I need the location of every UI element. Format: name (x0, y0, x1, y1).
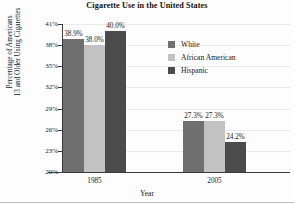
legend-swatch-icon (168, 67, 175, 74)
y-axis-label-line-2: 13 and Older Using Cigarettes (14, 8, 22, 97)
y-tick-label: 38% (38, 41, 58, 49)
y-tick-label: 35% (38, 62, 58, 70)
legend-label: Hispanic (181, 66, 208, 75)
legend-item: White (168, 38, 236, 51)
legend-swatch-icon (168, 41, 175, 48)
x-axis-line (48, 172, 290, 173)
y-axis-label: Percentage of Americans 13 and Older Usi… (0, 0, 28, 122)
bar-value-label: 27.3% (200, 112, 229, 120)
y-tick-label: 29% (38, 105, 58, 113)
y-tick-label: 41% (38, 20, 58, 28)
x-axis-label: Year (0, 189, 294, 198)
y-tick-label: 23% (38, 147, 58, 155)
page-bottom-rule (0, 202, 294, 203)
chart-title: Cigarette Use in the United States (0, 1, 294, 10)
legend-swatch-icon (168, 54, 175, 61)
legend: WhiteAfrican AmericanHispanic (168, 38, 236, 77)
legend-label: White (181, 40, 200, 49)
y-tick-label: 32% (38, 83, 58, 91)
chart-figure: Cigarette Use in the United States Perce… (0, 0, 294, 203)
bar (183, 121, 204, 172)
x-tick-label: 2005 (207, 177, 221, 185)
legend-item: Hispanic (168, 64, 236, 77)
bar-value-label: 38.0% (80, 36, 109, 44)
bar (204, 121, 225, 172)
bar-value-label: 24.2% (221, 133, 250, 141)
bar (225, 142, 246, 172)
bar (84, 45, 105, 172)
y-tick-label: 26% (38, 126, 58, 134)
legend-item: African American (168, 51, 236, 64)
legend-label: African American (181, 53, 236, 62)
bar-value-label: 40.0% (101, 22, 130, 30)
x-tick-label: 1985 (87, 177, 101, 185)
bar (105, 31, 126, 172)
bar (63, 39, 84, 172)
